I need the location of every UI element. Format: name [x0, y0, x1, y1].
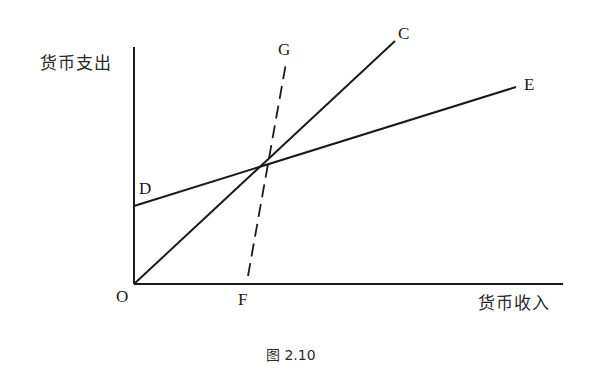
point-label-origin: O — [116, 288, 128, 305]
point-label-c: C — [398, 25, 409, 42]
point-label-e: E — [524, 76, 534, 93]
point-label-f: F — [238, 291, 247, 308]
line-oc — [134, 41, 395, 284]
point-label-d: D — [139, 180, 151, 197]
y-axis-label: 货币支出 — [40, 55, 112, 72]
x-axis-label: 货币收入 — [478, 295, 550, 312]
point-label-g: G — [278, 41, 290, 58]
figure-caption: 图 2.10 — [266, 348, 316, 362]
